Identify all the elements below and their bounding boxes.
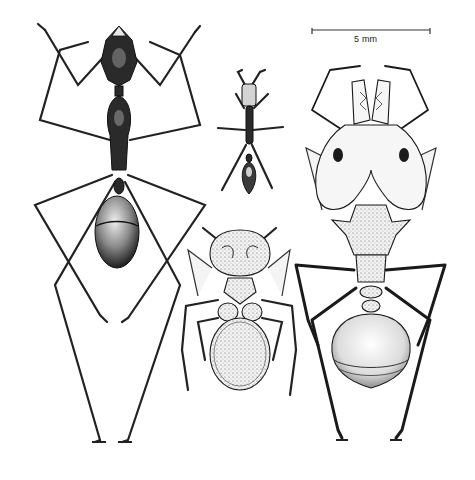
specimen-small-worker <box>218 70 283 194</box>
specimen-armored-ant <box>182 228 296 395</box>
specimen-large-dark-worker <box>35 24 205 442</box>
illustration-canvas <box>0 0 475 480</box>
scale-bar-label: 5 mm <box>354 34 377 44</box>
ant-illustration-plate: 5 mm <box>0 0 475 480</box>
specimen-soldier-large-head <box>296 66 445 440</box>
